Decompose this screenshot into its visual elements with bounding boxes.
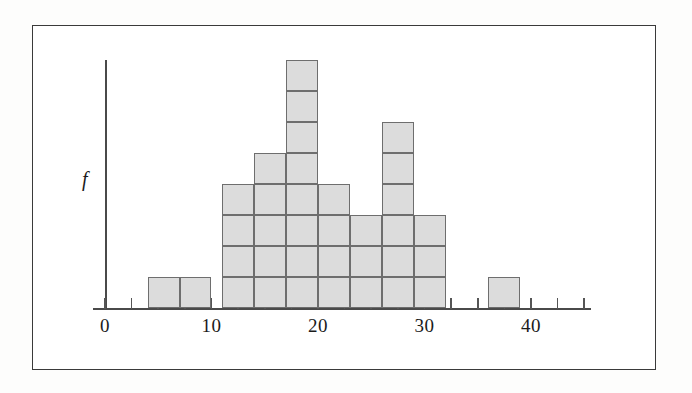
- x-axis-tick-label: 20: [308, 315, 328, 337]
- x-axis-tick: [557, 298, 559, 309]
- histogram-bar-unit-block: [350, 246, 382, 277]
- x-axis-tick: [583, 298, 585, 309]
- histogram-bar-unit-block: [286, 246, 318, 277]
- x-axis-tick: [131, 298, 133, 309]
- histogram-bar-unit-block: [286, 184, 318, 215]
- x-axis-tick-label: 30: [415, 315, 435, 337]
- histogram-bar-unit-block: [318, 246, 350, 277]
- histogram-bar-unit-block: [180, 277, 212, 308]
- histogram-bar-unit-block: [350, 277, 382, 308]
- x-axis-tick-label: 0: [100, 315, 110, 337]
- histogram-bar-unit-block: [222, 215, 254, 246]
- x-axis-tick: [104, 298, 106, 309]
- x-axis-tick-label: 10: [202, 315, 222, 337]
- histogram-bar-unit-block: [286, 60, 318, 91]
- x-axis-tick-label: 40: [521, 315, 541, 337]
- x-axis-line: [93, 308, 591, 310]
- histogram-bar-unit-block: [254, 277, 286, 308]
- histogram-bar-unit-block: [382, 184, 414, 215]
- histogram-bar-unit-block: [148, 277, 180, 308]
- histogram-bar-unit-block: [414, 277, 446, 308]
- histogram-bar-unit-block: [222, 246, 254, 277]
- x-axis-tick: [530, 298, 532, 309]
- histogram-bar-unit-block: [286, 122, 318, 153]
- x-axis-tick: [477, 298, 479, 309]
- histogram-bar-unit-block: [382, 246, 414, 277]
- histogram-bar-unit-block: [318, 277, 350, 308]
- histogram-bar-unit-block: [254, 246, 286, 277]
- histogram-bar-unit-block: [318, 184, 350, 215]
- histogram-bar-unit-block: [488, 277, 520, 308]
- histogram-bar-unit-block: [254, 184, 286, 215]
- histogram-bar-unit-block: [286, 91, 318, 122]
- histogram-bar-unit-block: [286, 153, 318, 184]
- figure-container: f 010203040: [0, 0, 692, 393]
- histogram-bar-unit-block: [286, 215, 318, 246]
- y-axis-line: [105, 60, 107, 309]
- histogram-bar-unit-block: [222, 184, 254, 215]
- histogram-bar-unit-block: [414, 246, 446, 277]
- histogram-bar-unit-block: [222, 277, 254, 308]
- histogram-bar-unit-block: [254, 153, 286, 184]
- histogram-bar-unit-block: [350, 215, 382, 246]
- histogram-bar-unit-block: [318, 215, 350, 246]
- plot-area: f 010203040: [0, 0, 692, 393]
- histogram-bar-unit-block: [382, 122, 414, 153]
- histogram-bar-unit-block: [382, 215, 414, 246]
- y-axis-label: f: [82, 168, 88, 191]
- histogram-bar-unit-block: [414, 215, 446, 246]
- histogram-bar-unit-block: [382, 153, 414, 184]
- histogram-bar-unit-block: [254, 215, 286, 246]
- histogram-bar-unit-block: [286, 277, 318, 308]
- x-axis-tick: [450, 298, 452, 309]
- histogram-bar-unit-block: [382, 277, 414, 308]
